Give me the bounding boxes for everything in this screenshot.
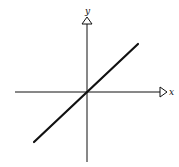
function-line	[34, 44, 138, 142]
x-axis-label: x	[169, 87, 174, 97]
x-axis-arrow-icon	[160, 87, 167, 97]
diagram-canvas: y x	[0, 0, 179, 167]
y-axis-label: y	[84, 6, 91, 16]
y-axis-arrow-icon	[82, 17, 92, 24]
